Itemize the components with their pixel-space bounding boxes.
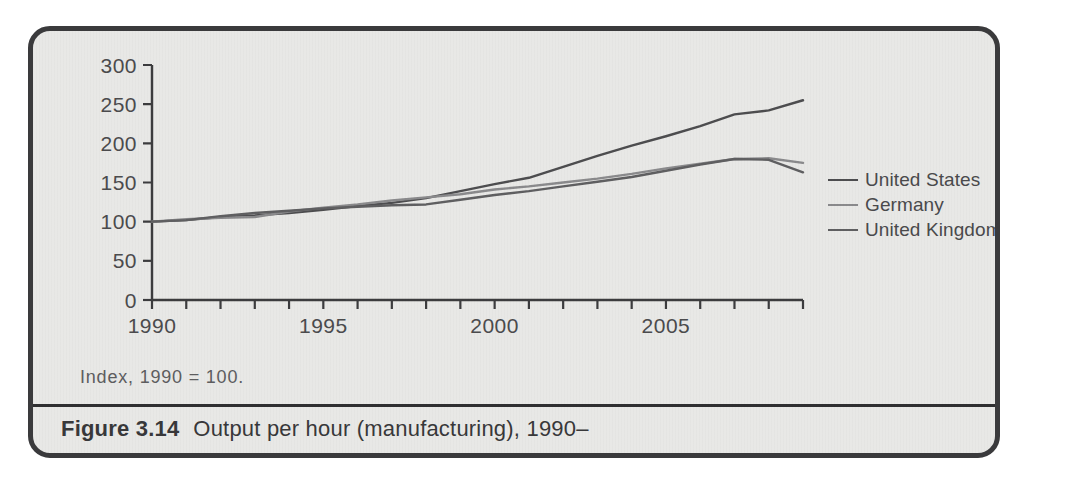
legend-line-swatch <box>828 179 858 181</box>
caption-divider <box>33 404 995 407</box>
x-axis-tick-label: 1990 <box>128 314 177 337</box>
legend-item-label: Germany <box>865 194 944 216</box>
x-axis-tick-label: 2005 <box>642 314 691 337</box>
series-line-united-states <box>152 100 803 221</box>
y-axis-tick-label: 50 <box>113 249 137 272</box>
x-axis-tick-label: 1995 <box>299 314 348 337</box>
legend-item-label: United Kingdom <box>865 219 1000 241</box>
series-line-germany <box>152 158 803 221</box>
figure-container: 0501001502002503001990199520002005 Unite… <box>28 26 1000 458</box>
x-axis-tick-label: 2000 <box>470 314 519 337</box>
figure-caption-number: Figure 3.14 <box>61 416 179 441</box>
y-axis-tick-label: 150 <box>100 171 137 194</box>
legend-item: United States <box>828 167 1000 192</box>
legend-item: United Kingdom <box>828 217 1000 242</box>
y-axis-tick-label: 250 <box>100 93 137 116</box>
figure-caption-text: Output per hour (manufacturing), 1990– <box>193 416 588 441</box>
legend-line-swatch <box>828 204 858 206</box>
legend-item-label: United States <box>865 169 980 191</box>
figure-caption: Figure 3.14Output per hour (manufacturin… <box>61 416 589 442</box>
y-axis-tick-label: 200 <box>100 132 137 155</box>
index-note: Index, 1990 = 100. <box>80 367 244 388</box>
chart-legend: United StatesGermanyUnited Kingdom <box>828 167 1000 242</box>
legend-line-swatch <box>828 229 858 231</box>
series-line-united-kingdom <box>152 159 803 222</box>
y-axis-tick-label: 300 <box>100 54 137 77</box>
legend-item: Germany <box>828 192 1000 217</box>
y-axis-tick-label: 100 <box>100 210 137 233</box>
y-axis-tick-label: 0 <box>125 289 137 312</box>
